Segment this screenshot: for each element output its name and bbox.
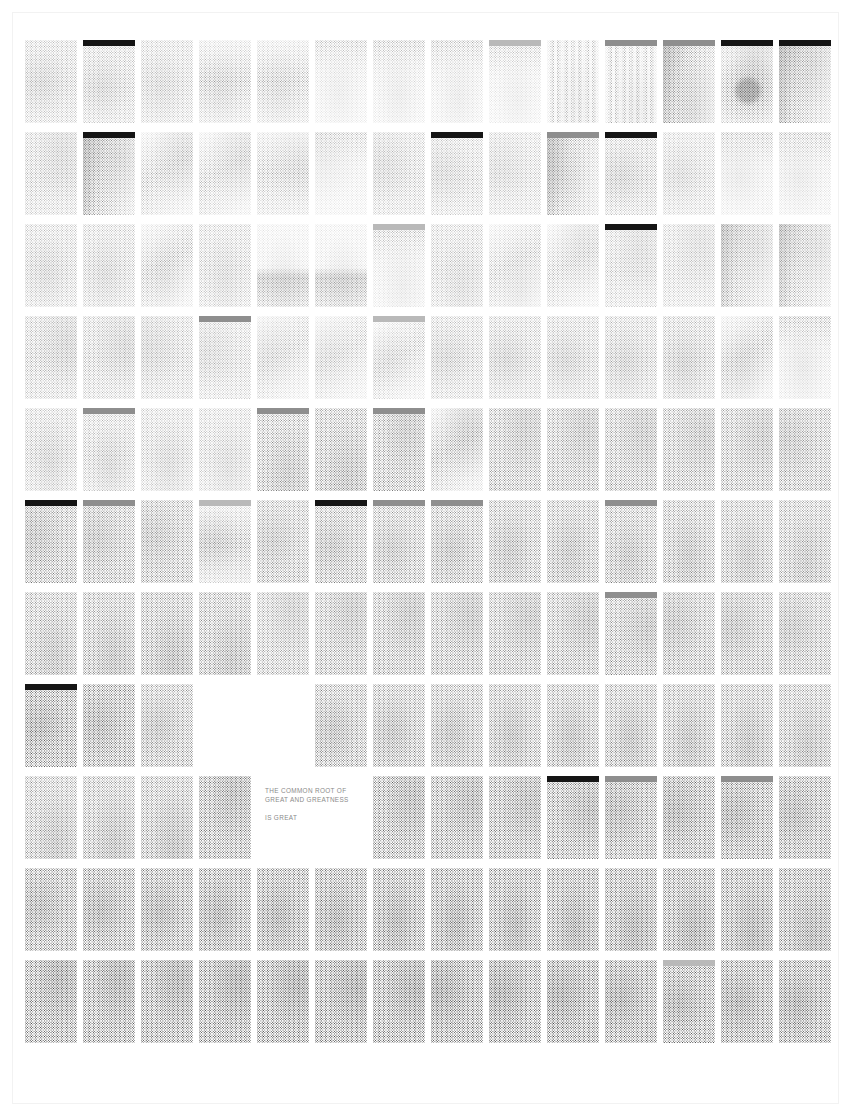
- thumbnail-card[interactable]: [663, 868, 715, 951]
- thumbnail-card[interactable]: [257, 40, 309, 123]
- thumbnail-card[interactable]: [83, 868, 135, 951]
- thumbnail-card[interactable]: [663, 776, 715, 859]
- thumbnail-card[interactable]: [257, 408, 309, 491]
- thumbnail-card[interactable]: [547, 684, 599, 767]
- thumbnail-card[interactable]: [663, 132, 715, 215]
- thumbnail-card[interactable]: [547, 592, 599, 675]
- thumbnail-card[interactable]: [489, 316, 541, 399]
- thumbnail-card[interactable]: [25, 868, 77, 951]
- thumbnail-card[interactable]: [83, 684, 135, 767]
- thumbnail-card[interactable]: [199, 40, 251, 123]
- thumbnail-card[interactable]: [257, 592, 309, 675]
- thumbnail-card[interactable]: [605, 316, 657, 399]
- thumbnail-card[interactable]: [779, 408, 831, 491]
- thumbnail-card[interactable]: [83, 776, 135, 859]
- thumbnail-card[interactable]: [25, 316, 77, 399]
- thumbnail-card[interactable]: [25, 224, 77, 307]
- thumbnail-card[interactable]: [373, 40, 425, 123]
- thumbnail-card[interactable]: [663, 592, 715, 675]
- thumbnail-card[interactable]: [431, 500, 483, 583]
- thumbnail-card[interactable]: [315, 316, 367, 399]
- thumbnail-card[interactable]: [489, 224, 541, 307]
- thumbnail-card[interactable]: [315, 40, 367, 123]
- thumbnail-card[interactable]: [199, 132, 251, 215]
- thumbnail-card[interactable]: [315, 500, 367, 583]
- thumbnail-card[interactable]: [605, 40, 657, 123]
- thumbnail-card[interactable]: [663, 408, 715, 491]
- thumbnail-card[interactable]: [257, 316, 309, 399]
- thumbnail-card[interactable]: [721, 592, 773, 675]
- thumbnail-card[interactable]: [605, 776, 657, 859]
- thumbnail-card[interactable]: [83, 500, 135, 583]
- thumbnail-card[interactable]: [721, 868, 773, 951]
- thumbnail-card[interactable]: [25, 776, 77, 859]
- thumbnail-card[interactable]: [431, 684, 483, 767]
- thumbnail-card[interactable]: [721, 40, 773, 123]
- thumbnail-card[interactable]: [25, 500, 77, 583]
- thumbnail-card[interactable]: [25, 592, 77, 675]
- thumbnail-card[interactable]: [431, 868, 483, 951]
- text-panel-card[interactable]: THE COMMON ROOT OF GREAT AND GREATNESS I…: [257, 776, 367, 859]
- thumbnail-card[interactable]: [489, 592, 541, 675]
- thumbnail-card[interactable]: [779, 132, 831, 215]
- thumbnail-card[interactable]: [431, 408, 483, 491]
- thumbnail-card[interactable]: [83, 40, 135, 123]
- thumbnail-card[interactable]: [431, 316, 483, 399]
- thumbnail-card[interactable]: [721, 960, 773, 1043]
- thumbnail-card[interactable]: [315, 132, 367, 215]
- thumbnail-card[interactable]: [605, 500, 657, 583]
- thumbnail-card[interactable]: [547, 500, 599, 583]
- thumbnail-card[interactable]: [83, 592, 135, 675]
- thumbnail-card[interactable]: [199, 500, 251, 583]
- thumbnail-card[interactable]: [547, 224, 599, 307]
- thumbnail-card[interactable]: [779, 500, 831, 583]
- thumbnail-card[interactable]: [779, 316, 831, 399]
- thumbnail-card[interactable]: [547, 868, 599, 951]
- thumbnail-card[interactable]: [373, 684, 425, 767]
- thumbnail-card[interactable]: [199, 868, 251, 951]
- thumbnail-card[interactable]: [605, 684, 657, 767]
- thumbnail-card[interactable]: [431, 960, 483, 1043]
- thumbnail-card[interactable]: [663, 316, 715, 399]
- thumbnail-card[interactable]: [605, 132, 657, 215]
- thumbnail-card[interactable]: [489, 500, 541, 583]
- thumbnail-card[interactable]: [25, 408, 77, 491]
- thumbnail-card[interactable]: [257, 224, 309, 307]
- thumbnail-card[interactable]: [431, 776, 483, 859]
- thumbnail-card[interactable]: [141, 408, 193, 491]
- thumbnail-card[interactable]: [431, 224, 483, 307]
- thumbnail-card[interactable]: [83, 408, 135, 491]
- thumbnail-card[interactable]: [373, 592, 425, 675]
- thumbnail-card[interactable]: [663, 500, 715, 583]
- thumbnail-card[interactable]: [199, 960, 251, 1043]
- thumbnail-card[interactable]: [141, 224, 193, 307]
- thumbnail-card[interactable]: [663, 960, 715, 1043]
- thumbnail-card[interactable]: [779, 592, 831, 675]
- thumbnail-card[interactable]: [25, 40, 77, 123]
- thumbnail-card[interactable]: [257, 132, 309, 215]
- thumbnail-card[interactable]: [721, 408, 773, 491]
- thumbnail-card[interactable]: [257, 960, 309, 1043]
- thumbnail-card[interactable]: [431, 132, 483, 215]
- thumbnail-card[interactable]: [199, 408, 251, 491]
- thumbnail-card[interactable]: [315, 592, 367, 675]
- thumbnail-card[interactable]: [373, 224, 425, 307]
- thumbnail-card[interactable]: [257, 500, 309, 583]
- thumbnail-card[interactable]: [373, 500, 425, 583]
- thumbnail-card[interactable]: [547, 960, 599, 1043]
- thumbnail-card[interactable]: [141, 960, 193, 1043]
- thumbnail-card[interactable]: [199, 592, 251, 675]
- thumbnail-card[interactable]: [373, 408, 425, 491]
- thumbnail-card[interactable]: [141, 684, 193, 767]
- thumbnail-card[interactable]: [373, 316, 425, 399]
- thumbnail-card[interactable]: [373, 776, 425, 859]
- thumbnail-card[interactable]: [315, 868, 367, 951]
- thumbnail-card[interactable]: [489, 868, 541, 951]
- thumbnail-card[interactable]: [141, 40, 193, 123]
- thumbnail-card[interactable]: [663, 224, 715, 307]
- thumbnail-card[interactable]: [779, 40, 831, 123]
- thumbnail-card[interactable]: [141, 868, 193, 951]
- thumbnail-card[interactable]: [141, 592, 193, 675]
- thumbnail-card[interactable]: [315, 224, 367, 307]
- thumbnail-card[interactable]: [489, 684, 541, 767]
